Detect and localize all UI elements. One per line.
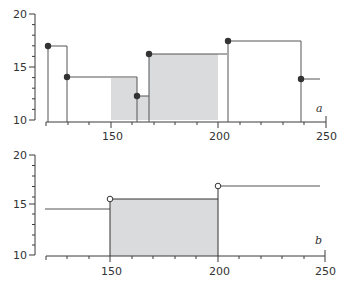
x-tick-label-250-b: 250	[315, 265, 336, 278]
x-tick-label-150-b: 150	[101, 265, 122, 278]
shaded-area-b	[110, 199, 218, 256]
y-tick-label-10-b: 10	[13, 249, 27, 262]
x-tick-label-200-a: 200	[209, 130, 230, 143]
y-tick-label-15-b: 15	[13, 198, 27, 211]
y-tick-label-10-a: 10	[13, 114, 27, 127]
chart-panel-b: 20 15 10 150 200 250	[13, 149, 336, 278]
y-tick-label-20-a: 20	[13, 8, 27, 21]
y-tick-label-20-b: 20	[13, 149, 27, 162]
y-ticks-a	[29, 14, 35, 120]
chart-panel-a: 20 15 10 150 200 250	[13, 8, 337, 143]
x-tick-label-200-b: 200	[209, 265, 230, 278]
y-tick-label-15-a: 15	[13, 61, 27, 74]
y-ticks-b	[29, 155, 35, 255]
x-tick-label-250-a: 250	[316, 130, 337, 143]
panel-label-a: a	[316, 102, 323, 115]
shaded-area-a	[111, 54, 218, 120]
figure: 20 15 10 150 200 250	[0, 0, 344, 286]
panel-label-b: b	[315, 234, 322, 247]
x-tick-label-150-a: 150	[102, 130, 123, 143]
